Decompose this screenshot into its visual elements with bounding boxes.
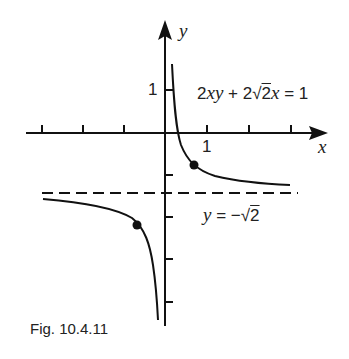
curve-equation: 2xy + 2√2x = 1 — [197, 82, 308, 104]
y-ticks — [165, 90, 173, 302]
plot-canvas — [0, 0, 349, 359]
x-tick-label-1: 1 — [202, 137, 211, 157]
asymptote-label: y = −√2 — [203, 204, 260, 226]
x-ticks — [42, 125, 291, 133]
sqrt-icon: √ — [241, 206, 250, 225]
curve-left-branch — [43, 199, 158, 320]
y-axis-label: y — [179, 20, 187, 42]
point-left — [133, 221, 142, 230]
y-tick-label-1: 1 — [148, 80, 157, 100]
figure-caption: Fig. 10.4.11 — [30, 320, 108, 337]
x-axis-label: x — [318, 136, 326, 158]
sqrt-icon: √ — [252, 84, 261, 103]
point-right — [190, 161, 199, 170]
